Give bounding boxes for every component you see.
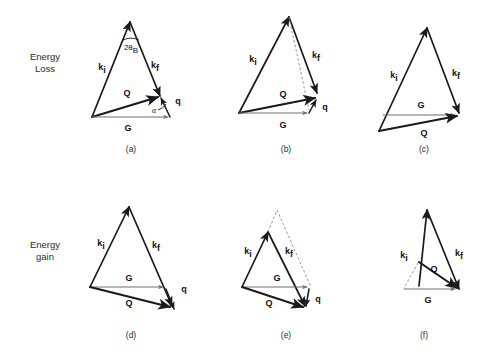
panel-e-Q-label: Q [265,298,272,308]
panel-b-caption: (b) [281,144,292,154]
panel-f-caption: (f) [420,330,428,340]
panel-d-Q-label: Q [125,298,132,308]
panel-a-caption: (a) [126,144,137,154]
panel-d-G-label: G [125,273,132,283]
panel-e-q-label: q [315,294,321,304]
panel-a-G-label: G [124,123,131,133]
panel-a-Q-label: Q [123,88,130,98]
row-label-energy-gain-line2: gain [36,251,54,262]
panel-c-G-label: G [417,100,424,110]
panel-e-caption: (e) [281,330,292,340]
panel-b-G-label: G [279,120,286,130]
panel-f-Q-label: Q [430,264,437,274]
panel-e-G-label: G [273,273,280,283]
panel-b-q-label: q [322,102,328,112]
row-label-energy-loss-line1: Energy [30,51,60,62]
row-label-energy-loss-line2: Loss [35,63,55,74]
panel-c-caption: (c) [419,144,429,154]
panel-b-Q-label: Q [279,89,286,99]
panel-d-caption: (d) [126,330,137,340]
panel-d-q-label: q [181,284,187,294]
panel-f-G-label: G [424,295,431,305]
panel-a-q-label: q [175,96,181,106]
panel-c-Q-label: Q [420,128,427,138]
scattering-vector-diagram-figure: Energy Loss Energy gain ki kf Q G q α 2θ… [0,0,489,357]
row-label-energy-gain-line1: Energy [30,239,60,250]
